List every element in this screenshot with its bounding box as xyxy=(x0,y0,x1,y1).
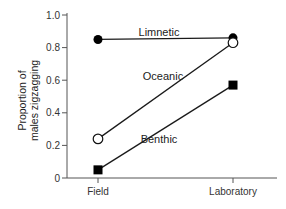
series-label-limnetic: Limnetic xyxy=(139,26,180,38)
series-line xyxy=(98,85,233,170)
y-axis-title: Proportion ofmales zigzagging xyxy=(16,60,40,141)
open-circle-marker xyxy=(228,38,238,48)
y-axis-ticks: 00.20.40.60.81.0 xyxy=(46,10,67,184)
x-tick-label-laboratory: Laboratory xyxy=(209,186,257,197)
x-axis-ticks: FieldLaboratory xyxy=(87,178,257,197)
y-tick-label: 0 xyxy=(54,173,60,184)
chart: 00.20.40.60.81.0 FieldLaboratory Limneti… xyxy=(0,0,286,209)
series-label-benthic: Benthic xyxy=(141,133,178,145)
y-tick-label: 0.8 xyxy=(46,42,60,53)
series-labels: LimneticOceanicBenthic xyxy=(139,26,184,145)
y-tick-label: 0.6 xyxy=(46,75,60,86)
series-line xyxy=(98,43,233,139)
series-group xyxy=(93,33,238,174)
series-label-oceanic: Oceanic xyxy=(143,70,184,82)
open-circle-marker xyxy=(93,134,103,144)
x-tick-label-field: Field xyxy=(87,186,109,197)
y-tick-label: 0.2 xyxy=(46,140,60,151)
y-tick-label: 1.0 xyxy=(46,10,60,21)
series-line xyxy=(98,38,233,40)
y-tick-label: 0.4 xyxy=(46,107,60,118)
filled-circle-marker xyxy=(94,35,103,44)
filled-square-marker xyxy=(94,165,103,174)
filled-square-marker xyxy=(229,81,238,90)
